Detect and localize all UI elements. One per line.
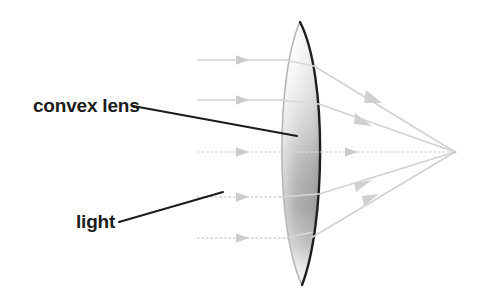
convex-lens-shape	[282, 22, 320, 285]
outgoing-ray-5	[311, 152, 455, 238]
incoming-ray-3-optical-axis	[197, 147, 290, 157]
convex-lens-leader-line	[133, 106, 297, 136]
incoming-ray-2	[197, 95, 294, 105]
incoming-ray-4	[197, 192, 294, 202]
optics-diagram: convex lens light	[0, 0, 486, 308]
focal-point	[453, 150, 456, 153]
diagram-canvas: convex lens light	[0, 0, 486, 308]
convex-lens-label: convex lens	[33, 95, 140, 116]
outgoing-ray-4	[319, 152, 455, 194]
light-label: light	[76, 211, 116, 232]
outgoing-rays-group	[311, 66, 455, 238]
outgoing-ray-3-optical-axis	[321, 147, 455, 157]
light-leader-line	[119, 192, 223, 222]
